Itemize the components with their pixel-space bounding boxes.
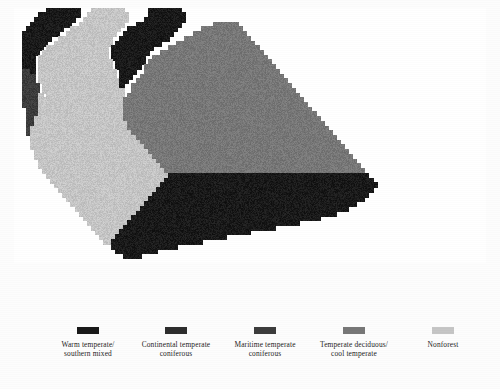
legend-item-warm-temperate-southern-mixed: Warm temperate/ southern mixed bbox=[44, 327, 132, 358]
map-legend: Warm temperate/ southern mixed Continent… bbox=[0, 327, 500, 373]
legend-swatch-warm-temperate-southern-mixed bbox=[77, 327, 99, 334]
legend-item-maritime-temperate-coniferous: Maritime temperate coniferous bbox=[221, 327, 309, 358]
legend-item-continental-temperate-coniferous: Continental temperate coniferous bbox=[132, 327, 220, 358]
us-vegetation-map bbox=[14, 8, 486, 263]
legend-swatch-maritime-temperate-coniferous bbox=[254, 327, 276, 334]
legend-label-warm-temperate-southern-mixed: Warm temperate/ southern mixed bbox=[61, 340, 114, 358]
legend-label-temperate-deciduous-cool-temperate: Temperate deciduous/ cool temperate bbox=[320, 340, 388, 358]
legend-swatch-continental-temperate-coniferous bbox=[165, 327, 187, 334]
legend-item-temperate-deciduous-cool-temperate: Temperate deciduous/ cool temperate bbox=[310, 327, 398, 358]
vegetation-map-figure: Warm temperate/ southern mixed Continent… bbox=[0, 0, 500, 389]
legend-item-nonforest: Nonforest bbox=[399, 327, 487, 349]
map-raster-canvas bbox=[14, 8, 486, 263]
legend-label-maritime-temperate-coniferous: Maritime temperate coniferous bbox=[234, 340, 295, 358]
legend-label-nonforest: Nonforest bbox=[428, 340, 459, 349]
legend-swatch-nonforest bbox=[432, 327, 454, 334]
legend-swatch-temperate-deciduous-cool-temperate bbox=[343, 327, 365, 334]
legend-label-continental-temperate-coniferous: Continental temperate coniferous bbox=[142, 340, 211, 358]
